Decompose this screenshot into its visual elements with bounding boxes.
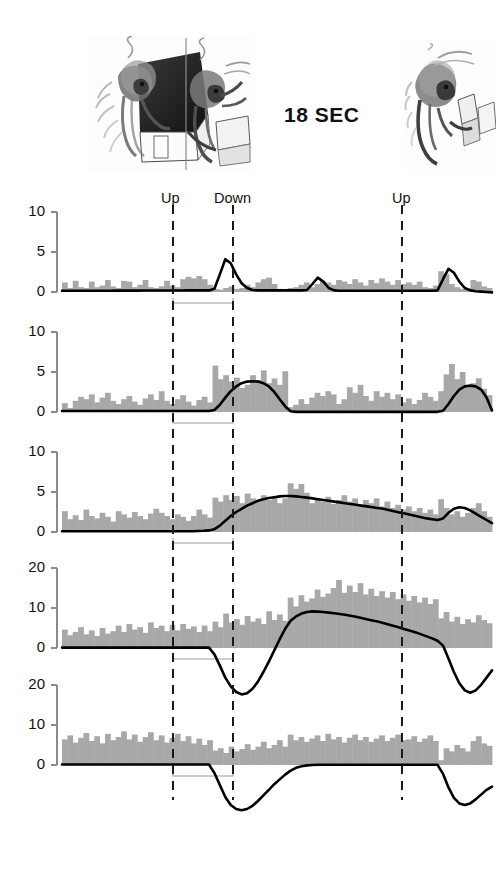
histogram-bar: [277, 385, 283, 412]
histogram-bar: [277, 503, 283, 532]
figure-page: 18 SEC 0510051005100102001020 UpDownUp: [0, 0, 499, 872]
histogram-bar: [67, 519, 73, 532]
histogram-bar: [100, 513, 106, 532]
histogram-bar: [105, 393, 111, 412]
histogram-bar: [395, 280, 401, 292]
histogram-bar: [428, 510, 434, 532]
histogram-bar: [282, 371, 288, 412]
histogram-bar: [272, 284, 278, 292]
y-axis-label: 10: [11, 598, 45, 615]
histogram-bar: [406, 398, 412, 412]
histogram-bar: [223, 495, 229, 532]
histogram-bar: [196, 632, 202, 648]
histogram-bar: [320, 396, 326, 412]
histogram-bar: [84, 399, 90, 412]
histogram-bar: [116, 404, 122, 412]
histogram-bar: [213, 498, 219, 532]
histogram-bar: [277, 614, 283, 648]
histogram-bar: [67, 288, 73, 292]
histogram-bar: [368, 280, 374, 292]
histogram-bar: [368, 401, 374, 412]
histogram-bar: [352, 592, 358, 648]
histogram-bar: [315, 284, 321, 292]
histogram-bar: [148, 732, 154, 765]
histogram-bar: [159, 626, 165, 648]
histogram-bar: [67, 635, 73, 648]
histogram-bar: [331, 285, 337, 292]
histogram-bar: [137, 285, 143, 292]
histogram-bar: [379, 506, 385, 532]
histogram-bar: [256, 282, 262, 292]
histogram-bar: [250, 750, 256, 765]
histogram-bar: [239, 288, 245, 292]
histogram-bar: [143, 398, 149, 412]
histogram-bar: [213, 751, 219, 765]
histogram-bar: [422, 287, 428, 292]
y-axis-label: 5: [11, 482, 45, 499]
histogram-bar: [277, 289, 283, 292]
histogram-bar: [89, 741, 95, 765]
histogram-bar: [148, 287, 154, 292]
histogram-bar: [422, 393, 428, 412]
histogram-bar: [196, 400, 202, 412]
histogram-bar: [395, 735, 401, 765]
y-axis-label: 0: [11, 638, 45, 655]
histogram-bar: [100, 743, 106, 765]
histogram-bar: [390, 285, 396, 292]
histogram-bar: [320, 502, 326, 532]
y-axis-tick: [51, 764, 57, 766]
histogram-bar: [460, 748, 466, 765]
histogram-bar: [374, 498, 380, 532]
histogram-bar: [476, 736, 482, 765]
histogram-bar: [471, 508, 477, 532]
event-interval-bracket: [173, 418, 233, 423]
event-interval-bracket: [173, 771, 233, 776]
histogram-bar: [229, 747, 235, 765]
y-axis-label: 0: [11, 522, 45, 539]
histogram-bar: [347, 284, 353, 292]
histogram-bar: [218, 379, 224, 412]
histogram-bar: [288, 598, 294, 648]
histogram-bar: [325, 594, 331, 648]
histogram-bar: [406, 506, 412, 532]
histogram-bar: [159, 391, 165, 412]
y-axis-label: 20: [11, 675, 45, 692]
y-axis-tick: [51, 251, 57, 253]
histogram-bar: [218, 748, 224, 765]
histogram-bar: [78, 520, 84, 532]
histogram-bar: [250, 375, 256, 412]
histogram-bar: [191, 406, 197, 412]
histogram-bar: [175, 399, 181, 412]
histogram-bar: [170, 625, 176, 648]
histogram-bar: [460, 289, 466, 292]
histogram-bar: [164, 631, 170, 648]
histogram-bar: [433, 599, 439, 648]
histogram-bar: [449, 751, 455, 765]
histogram-bar: [229, 500, 235, 532]
histogram-bar: [196, 276, 202, 292]
histogram-bar: [73, 515, 79, 532]
histogram-bar: [336, 280, 342, 292]
histogram-bar: [266, 500, 272, 532]
histogram-bar: [449, 284, 455, 292]
histogram-bar: [207, 518, 213, 532]
histogram-bar: [105, 734, 111, 765]
histogram-bar: [153, 740, 159, 765]
histogram-bar: [363, 500, 369, 532]
histogram-bar: [358, 505, 364, 532]
histogram-bar: [481, 389, 487, 412]
histogram-bar: [62, 511, 68, 532]
histogram-bar: [105, 634, 111, 648]
histogram-bar: [417, 742, 423, 765]
histogram-bar: [363, 594, 369, 648]
histogram-bar: [116, 511, 122, 532]
histogram-bar: [170, 286, 176, 292]
histogram-bar: [293, 740, 299, 765]
histogram-bar: [250, 622, 256, 648]
y-axis-tick: [51, 211, 57, 213]
histogram-bar: [331, 504, 337, 532]
histogram-bar: [186, 736, 192, 765]
histogram-bar: [444, 508, 450, 532]
y-axis-label: 10: [11, 715, 45, 732]
histogram-bar: [245, 385, 251, 412]
